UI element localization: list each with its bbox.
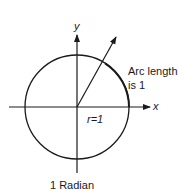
unit-circle-diagram xyxy=(0,0,195,196)
x-axis-label: x xyxy=(153,100,159,112)
radius-label: r=1 xyxy=(87,113,103,125)
diagram-title: 1 Radian xyxy=(50,179,94,191)
y-axis-label: y xyxy=(74,20,80,32)
arc-length-label: Arc length xyxy=(128,65,178,77)
arc-length-one xyxy=(105,63,129,107)
arc-length-value-label: is 1 xyxy=(128,79,145,91)
radius-ray xyxy=(77,37,116,107)
